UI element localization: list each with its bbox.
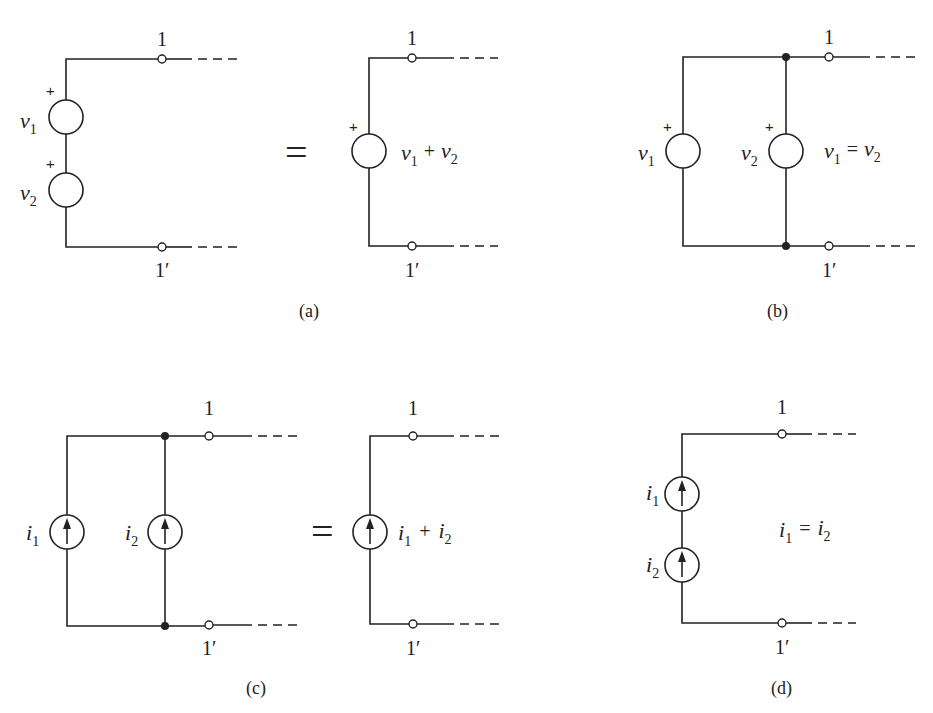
wire	[682, 582, 778, 623]
panel-d-circuit: i1 i2 i1=i2 1 1′	[646, 396, 856, 658]
plus-sign: +	[663, 118, 672, 135]
label-i2: i2	[646, 552, 659, 581]
wire	[682, 434, 778, 477]
wire	[67, 549, 205, 626]
terminal-1-prime	[158, 243, 166, 251]
wire	[66, 207, 162, 247]
caption-c: (c)	[246, 678, 266, 699]
terminal-1-prime	[408, 242, 416, 250]
junction-dot	[782, 53, 790, 61]
wire	[369, 168, 409, 246]
terminal-1-prime	[409, 620, 417, 628]
terminal-label-1-prime: 1′	[775, 636, 789, 658]
current-source-i1	[665, 477, 699, 511]
voltage-source-v2	[49, 173, 83, 207]
wire	[67, 436, 205, 515]
condition-i1-equals-i2: i1=i2	[779, 515, 831, 546]
label-v1-plus-v2: v1+v2	[401, 138, 458, 169]
caption-d: (d)	[771, 678, 792, 699]
label-i1: i1	[26, 520, 39, 549]
wire	[66, 59, 162, 100]
wire	[683, 168, 825, 246]
wire	[683, 57, 825, 134]
label-i2: i2	[125, 520, 138, 549]
plus-sign: +	[46, 155, 55, 172]
terminal-label-1: 1	[204, 397, 214, 419]
wire	[370, 549, 409, 624]
junction-dot	[161, 432, 169, 440]
junction-dot	[161, 622, 169, 630]
wire	[370, 436, 409, 515]
caption-b: (b)	[767, 301, 788, 322]
circuit-figure: + + v1 v2 1 1′ = + v1+v2 1 1′ (a)	[0, 0, 933, 713]
terminal-1-prime	[825, 242, 833, 250]
panel-b-circuit: + + v1 v2 v1=v2 1 1′	[638, 26, 918, 281]
panel-a-left-circuit: + + v1 v2 1 1′	[20, 28, 240, 281]
equals-sign: =	[285, 130, 308, 175]
terminal-1-prime	[778, 619, 786, 627]
equals-sign: =	[311, 509, 334, 554]
terminal-1	[205, 432, 213, 440]
terminal-label-1-prime: 1′	[822, 259, 836, 281]
terminal-1-prime	[205, 621, 213, 629]
condition-v1-equals-v2: v1=v2	[824, 136, 881, 167]
current-source-i2	[665, 548, 699, 582]
current-source-i1	[50, 515, 84, 549]
voltage-source-sum	[352, 134, 386, 168]
label-i1-plus-i2: i1+i2	[398, 518, 452, 549]
current-source-sum	[353, 515, 387, 549]
junction-dot	[782, 242, 790, 250]
voltage-source-v2	[769, 134, 803, 168]
terminal-label-1: 1	[777, 396, 787, 418]
terminal-1	[158, 55, 166, 63]
label-v2: v2	[741, 140, 758, 169]
terminal-1	[778, 430, 786, 438]
terminal-label-1: 1	[407, 27, 417, 49]
terminal-1	[408, 54, 416, 62]
label-v2: v2	[20, 180, 37, 209]
terminal-label-1: 1	[408, 397, 418, 419]
terminal-label-1-prime: 1′	[155, 259, 169, 281]
label-v1: v1	[638, 140, 655, 169]
current-source-i2	[148, 515, 182, 549]
wire	[369, 58, 409, 134]
plus-sign: +	[765, 118, 774, 135]
terminal-1	[825, 53, 833, 61]
panel-a-right-circuit: + v1+v2 1 1′	[349, 27, 498, 281]
terminal-label-1-prime: 1′	[202, 637, 216, 659]
terminal-1	[409, 432, 417, 440]
plus-sign: +	[349, 118, 358, 135]
plus-sign: +	[46, 82, 55, 99]
voltage-source-v1	[666, 134, 700, 168]
terminal-label-1: 1	[157, 28, 167, 50]
panel-c-right-circuit: i1+i2 1 1′	[353, 397, 500, 659]
label-v1: v1	[20, 108, 37, 137]
terminal-label-1-prime: 1′	[406, 637, 420, 659]
voltage-source-v1	[49, 100, 83, 134]
panel-c-left-circuit: i1 i2 1 1′	[26, 397, 298, 659]
caption-a: (a)	[299, 301, 319, 322]
label-i1: i1	[646, 480, 659, 509]
terminal-label-1-prime: 1′	[405, 259, 419, 281]
terminal-label-1: 1	[824, 26, 834, 48]
